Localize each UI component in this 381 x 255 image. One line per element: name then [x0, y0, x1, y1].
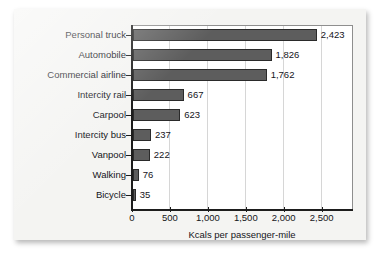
y-axis-tick: [126, 175, 132, 176]
y-axis-tick: [126, 195, 132, 196]
bar-row[interactable]: Carpool623: [14, 105, 381, 125]
category-label: Intercity bus: [14, 125, 126, 145]
bar[interactable]: [133, 109, 180, 121]
bar-row[interactable]: Vanpool222: [14, 145, 381, 165]
x-axis-tick-label: 1,500: [234, 212, 258, 223]
x-axis-tick-label: 1,000: [196, 212, 220, 223]
bar-row[interactable]: Walking76: [14, 165, 381, 185]
bar[interactable]: [133, 149, 150, 161]
bar-rows: Personal truck2,423Automobile1,826Commer…: [14, 25, 381, 209]
x-axis-tick-label: 2,500: [310, 212, 334, 223]
bar-row[interactable]: Bicycle35: [14, 185, 381, 205]
bar-value-label: 237: [155, 125, 171, 145]
y-axis-tick: [126, 115, 132, 116]
category-label: Bicycle: [14, 185, 126, 205]
category-label: Walking: [14, 165, 126, 185]
category-label: Commercial airline: [14, 65, 126, 85]
category-label: Carpool: [14, 105, 126, 125]
bar-row[interactable]: Intercity rail667: [14, 85, 381, 105]
bar-value-label: 1,762: [271, 65, 295, 85]
y-axis-tick: [126, 55, 132, 56]
bar[interactable]: [133, 189, 136, 201]
y-axis-tick: [126, 35, 132, 36]
category-label: Vanpool: [14, 145, 126, 165]
x-axis-tick-label: 500: [162, 212, 178, 223]
bar[interactable]: [133, 29, 317, 41]
bar[interactable]: [133, 69, 267, 81]
bar[interactable]: [133, 49, 272, 61]
bar-row[interactable]: Intercity bus237: [14, 125, 381, 145]
bar[interactable]: [133, 89, 184, 101]
bar-value-label: 623: [184, 105, 200, 125]
bar-value-label: 35: [140, 185, 151, 205]
x-axis-tick-label: 2,000: [272, 212, 296, 223]
bar-value-label: 2,423: [321, 25, 345, 45]
bar[interactable]: [133, 129, 151, 141]
bar-value-label: 76: [143, 165, 154, 185]
x-axis-title: Kcals per passenger-mile: [132, 229, 352, 240]
y-axis-tick: [126, 155, 132, 156]
category-label: Automobile: [14, 45, 126, 65]
bar-row[interactable]: Personal truck2,423: [14, 25, 381, 45]
y-axis-tick: [126, 135, 132, 136]
bar-value-label: 667: [188, 85, 204, 105]
chart-card: Personal truck2,423Automobile1,826Commer…: [14, 9, 366, 240]
bar-row[interactable]: Automobile1,826: [14, 45, 381, 65]
bar-value-label: 1,826: [276, 45, 300, 65]
x-axis-tick-label: 0: [129, 212, 134, 223]
bar-row[interactable]: Commercial airline1,762: [14, 65, 381, 85]
bar-value-label: 222: [154, 145, 170, 165]
bar[interactable]: [133, 169, 139, 181]
screenshot-root: Personal truck2,423Automobile1,826Commer…: [0, 0, 381, 255]
y-axis-tick: [126, 75, 132, 76]
y-axis-tick: [126, 95, 132, 96]
category-label: Personal truck: [14, 25, 126, 45]
x-axis-ticks: 05001,0001,5002,0002,500: [14, 212, 381, 228]
x-axis-line: [131, 209, 353, 211]
category-label: Intercity rail: [14, 85, 126, 105]
